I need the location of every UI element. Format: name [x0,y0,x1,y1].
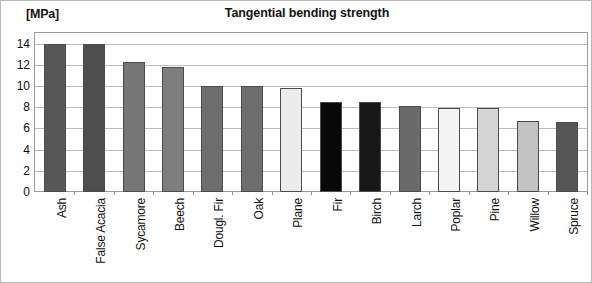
x-label-slot: Poplar [429,196,468,282]
y-tick-label: 2 [4,164,30,178]
x-tick-mark [153,192,154,195]
x-label-slot: Birch [350,196,389,282]
bar [517,121,539,192]
bar [399,106,421,192]
x-tick-label: Poplar [449,198,463,232]
x-tick-mark [548,192,549,195]
bar [83,44,105,192]
x-tick-label: Oak [252,198,266,219]
x-tick-mark [74,192,75,195]
x-label-slot: Plane [272,196,311,282]
x-tick-mark [429,192,430,195]
bar-chart-figure: [MPa] Tangential bending strength 024681… [0,0,592,283]
y-tick-label: 4 [4,143,30,157]
bar [162,67,184,192]
x-tick-label: Beech [173,198,187,231]
bar [241,86,263,192]
x-tick-mark [350,192,351,195]
x-tick-mark [272,192,273,195]
x-label-slot: Ash [35,196,74,282]
bar [201,86,223,192]
x-tick-label: Fir [331,198,345,211]
x-label-slot: Oak [232,196,271,282]
x-axis-category-labels: AshFalse AcaciaSycamoreBeechDougl. FirOa… [35,196,587,282]
bars-container [35,33,587,192]
x-label-slot: Willow [508,196,547,282]
x-tick-label: Larch [410,198,424,227]
x-label-slot: Dougl. Fir [193,196,232,282]
bar [123,62,145,192]
x-tick-mark [311,192,312,195]
bar [280,88,302,192]
y-tick-label: 14 [4,37,30,51]
x-tick-mark [587,192,588,195]
x-tick-mark [193,192,194,195]
bar [477,108,499,192]
y-tick-label: 8 [4,100,30,114]
y-tick-label: 6 [4,121,30,135]
bar [438,108,460,192]
x-label-slot: Pine [469,196,508,282]
bar [556,122,578,192]
y-tick-label: 12 [4,58,30,72]
bar [359,102,381,192]
x-tick-label: Pine [488,198,502,221]
x-tick-label: False Acacia [94,198,108,264]
x-tick-label: Ash [55,198,69,218]
x-tick-mark [508,192,509,195]
y-tick-label: 10 [4,79,30,93]
x-tick-mark [114,192,115,195]
x-tick-label: Birch [370,198,384,224]
x-label-slot: Sycamore [114,196,153,282]
x-label-slot: Beech [153,196,192,282]
x-tick-label: Dougl. Fir [212,198,226,248]
x-tick-label: Sycamore [134,198,148,250]
x-label-slot: False Acacia [74,196,113,282]
x-tick-mark [390,192,391,195]
chart-title: Tangential bending strength [1,6,591,20]
x-tick-label: Willow [528,198,542,231]
x-label-slot: Spruce [548,196,587,282]
x-tick-label: Plane [291,198,305,228]
x-label-slot: Fir [311,196,350,282]
y-tick-label: 0 [4,185,30,199]
x-tick-mark [232,192,233,195]
bar [320,102,342,192]
bar [44,44,66,192]
y-axis-tick-labels: 02468101214 [1,32,30,192]
x-tick-mark [469,192,470,195]
x-label-slot: Larch [390,196,429,282]
x-tick-label: Spruce [567,198,581,235]
